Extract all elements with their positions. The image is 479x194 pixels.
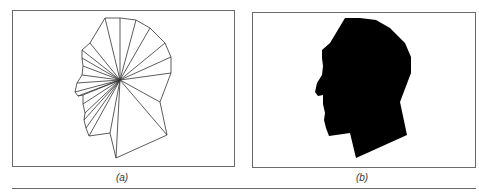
- triangulated-head-outline: [75, 18, 171, 158]
- head-silhouette: [315, 18, 411, 158]
- caption-a: (a): [116, 172, 128, 183]
- bottom-rule: [12, 188, 476, 189]
- caption-b: (b): [356, 172, 368, 183]
- figure-artwork: [0, 0, 479, 194]
